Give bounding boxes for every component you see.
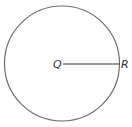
circle-diagram: Q R <box>0 0 132 127</box>
label-q: Q <box>53 58 62 71</box>
label-r: R <box>121 58 129 71</box>
